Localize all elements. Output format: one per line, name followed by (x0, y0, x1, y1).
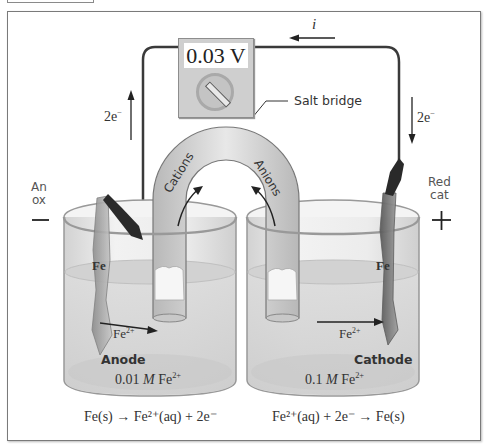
anode-half-reaction: Fe(s) → Fe²⁺(aq) + 2e⁻ (84, 408, 217, 425)
cathode-clip (385, 158, 404, 196)
salt-bridge-label: Salt bridge (294, 93, 362, 108)
electron-label-left: 2e− (104, 109, 122, 125)
anode-fe-label: Fe (92, 258, 106, 274)
voltmeter-reading: 0.03 V (184, 43, 248, 68)
cathode-concentration: 0.1 M Fe2+ (305, 372, 364, 388)
electron-label-right: 2e− (417, 110, 435, 126)
cathode-half-reaction: Fe²⁺(aq) + 2e⁻ → Fe(s) (272, 408, 405, 425)
cathode-label: Cathode (354, 352, 413, 367)
current-label: i (312, 16, 316, 33)
cathode-terminal-label: Redcat (428, 176, 451, 202)
anode-concentration: 0.01 M Fe2+ (115, 372, 181, 388)
anode-terminal-label: Anox (31, 181, 47, 207)
voltmeter: 0.03 V (178, 38, 254, 118)
voltmeter-dial-icon (196, 73, 234, 111)
electron-arrow-down-icon (409, 134, 416, 144)
anode-label: Anode (101, 352, 146, 367)
electron-arrow-up-icon (128, 90, 135, 100)
cathode-fe-label: Fe (376, 258, 390, 274)
current-arrow-icon (289, 35, 299, 42)
anode-ion-label: Fe2+ (113, 326, 134, 342)
cathode-ion-label: Fe2+ (339, 326, 360, 342)
